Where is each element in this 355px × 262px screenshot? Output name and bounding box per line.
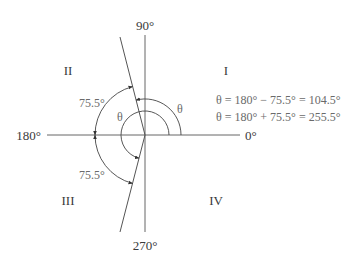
reference-arc-upper bbox=[95, 87, 133, 135]
quadrant-label-1: I bbox=[224, 63, 228, 78]
terminal-ray-104-5 bbox=[120, 37, 145, 135]
axis-label-90: 90° bbox=[136, 18, 154, 33]
terminal-ray-255-5 bbox=[120, 135, 145, 232]
axis-label-270: 270° bbox=[133, 238, 158, 253]
quadrant-label-3: III bbox=[62, 193, 75, 208]
theta-label-outer: θ bbox=[177, 102, 183, 116]
axis-label-180: 180° bbox=[16, 128, 41, 143]
quadrant-label-4: IV bbox=[209, 193, 223, 208]
equation-theta-1: θ = 180° − 75.5° = 104.5° bbox=[216, 93, 341, 107]
quadrant-label-2: II bbox=[64, 63, 73, 78]
axis-label-0: 0° bbox=[245, 128, 257, 143]
reference-angle-label-lower: 75.5° bbox=[79, 168, 105, 182]
unit-circle-diagram: 90° 270° 180° 0° I II III IV 75.5° 75.5°… bbox=[0, 0, 355, 262]
theta-label-inner: θ bbox=[117, 110, 123, 124]
equation-theta-2: θ = 180° + 75.5° = 255.5° bbox=[216, 110, 341, 124]
reference-angle-label-upper: 75.5° bbox=[79, 96, 105, 110]
theta-arc-outer bbox=[136, 99, 181, 135]
